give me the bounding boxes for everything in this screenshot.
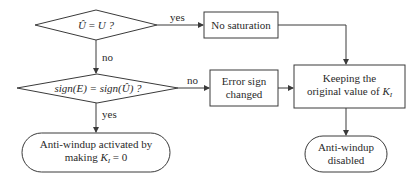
var-u: U ? [98,19,114,32]
edge-label-yes-1: yes [170,11,185,23]
activated-line1: Anti-windup activated by [40,138,152,151]
anti-windup-activated-label: Anti-windup activated by making KI = 0 [22,133,170,172]
activated-line2-suffix: = 0 [110,151,127,163]
activated-line2-prefix: making [65,151,101,163]
edge-b1-b3 [278,25,346,64]
error-sign-line2: changed [226,88,263,101]
keeping-line2-prefix: original value of [307,85,382,97]
edge-label-no-2: no [187,74,198,86]
keeping-line2: original value of KI [307,85,392,102]
disabled-line1: Anti-windup [318,141,374,154]
var-k: K [100,151,107,163]
error-sign-line1: Error sign [222,75,266,88]
var-k: K [382,85,389,97]
equals-op: = [86,19,98,32]
anti-windup-disabled-label: Anti-windup disabled [305,136,387,172]
edge-label-no-1: no [102,51,113,63]
no-saturation-label: No saturation [204,12,278,38]
decision-2-label: sign(E) = sign(Û) ? [37,78,159,98]
edge-label-yes-2: yes [102,108,117,120]
activated-line2: making KI = 0 [65,151,128,168]
keeping-original-label: Keeping the original value of KI [294,65,405,108]
error-sign-changed-label: Error sign changed [210,70,278,106]
disabled-line2: disabled [328,154,365,167]
keeping-line1: Keeping the [323,72,376,85]
var-k-sub: I [390,91,392,99]
var-u-hat: Û [78,19,86,32]
decision-1-label: Û = U ? [55,14,137,36]
